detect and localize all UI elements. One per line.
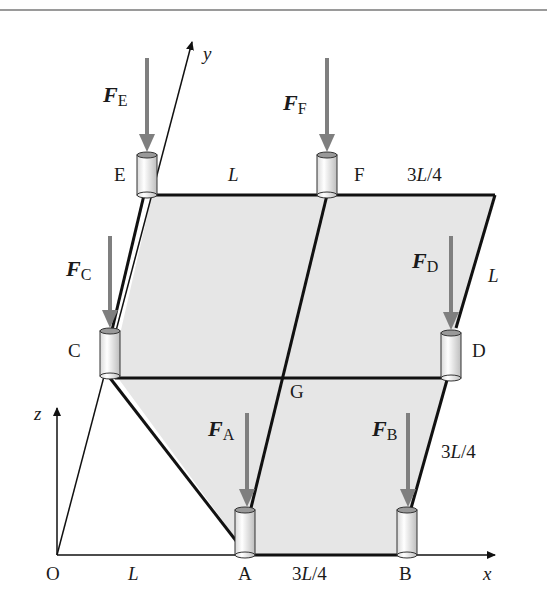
point-label-A: A: [238, 563, 252, 584]
point-label-D: D: [472, 340, 486, 361]
force-arrow-E: [139, 58, 155, 152]
cylinder-B: [397, 507, 417, 558]
z-axis-label: z: [33, 403, 42, 424]
origin-label: O: [46, 563, 60, 584]
dimension-OA: L: [127, 563, 139, 584]
point-label-G: G: [290, 381, 304, 402]
cylinder-F: [317, 152, 337, 198]
cylinder-A: [235, 507, 255, 558]
dimension-corner-D: L: [487, 265, 499, 286]
cylinder-E: [137, 152, 157, 198]
cylinder-C: [100, 328, 120, 379]
plate-upper: [110, 195, 495, 378]
plate-on-supports-diagram: FE FF FC FD FA FB E F C D G A B O x y z …: [0, 0, 547, 616]
cylinder-D: [441, 330, 461, 381]
dimension-EF: L: [227, 164, 239, 185]
force-arrow-C: [102, 236, 118, 328]
x-axis-label: x: [482, 563, 492, 584]
y-axis-label: y: [201, 43, 212, 64]
point-label-B: B: [399, 563, 412, 584]
force-label-E: FE: [102, 82, 127, 109]
dimension-F-corner: 3L/4: [407, 164, 442, 185]
dimension-AB: 3L/4: [292, 563, 327, 584]
point-label-F: F: [354, 164, 365, 185]
force-label-F: FF: [282, 90, 307, 117]
force-arrow-F: [319, 58, 335, 152]
point-label-E: E: [114, 164, 126, 185]
force-label-C: FC: [65, 256, 91, 283]
point-label-C: C: [68, 340, 81, 361]
dimension-D-B: 3L/4: [441, 441, 476, 462]
